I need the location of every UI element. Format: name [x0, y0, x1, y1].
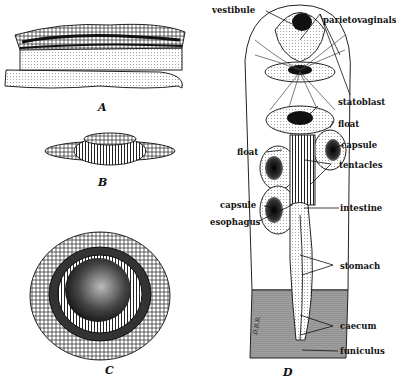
figure-b-caption: B	[98, 176, 107, 189]
label-esophagus: esophagus	[210, 218, 260, 227]
label-vestibule: vestibule	[212, 6, 255, 15]
label-funiculus: funiculus	[340, 347, 385, 356]
label-float-right: float	[338, 120, 359, 129]
label-statoblast: statoblast	[338, 98, 385, 107]
label-tentacles: tentacles	[339, 161, 383, 170]
figure-a-caption: A	[98, 101, 107, 114]
label-capsule-right: capsule	[341, 141, 377, 150]
label-float-left: float	[237, 148, 258, 157]
figure-c-caption: C	[105, 364, 114, 377]
label-caecum: caecum	[340, 322, 376, 331]
figure-c-drawing	[30, 232, 170, 360]
figure-a-drawing	[5, 24, 185, 88]
label-parietovaginals: parietovaginals	[323, 16, 396, 25]
figure-d-drawing: D.B.R.	[245, 5, 350, 358]
label-capsule-left: capsule	[220, 201, 256, 210]
figure-b-drawing	[45, 133, 175, 165]
figure-d-caption: D	[283, 366, 293, 379]
label-intestine: intestine	[340, 204, 382, 213]
label-stomach: stomach	[340, 262, 380, 271]
